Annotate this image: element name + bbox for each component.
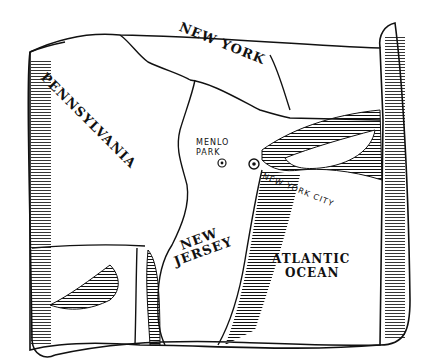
label-ocean: OCEAN [285, 266, 339, 280]
label-menlo-park-1: MENLO [196, 138, 229, 147]
scroll-map: NEW YORK PENNSYLVANIA MENLO PARK NEW YOR… [0, 0, 425, 364]
label-menlo-park-2: PARK [196, 148, 221, 157]
label-atlantic: ATLANTIC [271, 252, 350, 266]
left-curl-shading [31, 60, 51, 345]
right-curl-shading [385, 35, 405, 340]
